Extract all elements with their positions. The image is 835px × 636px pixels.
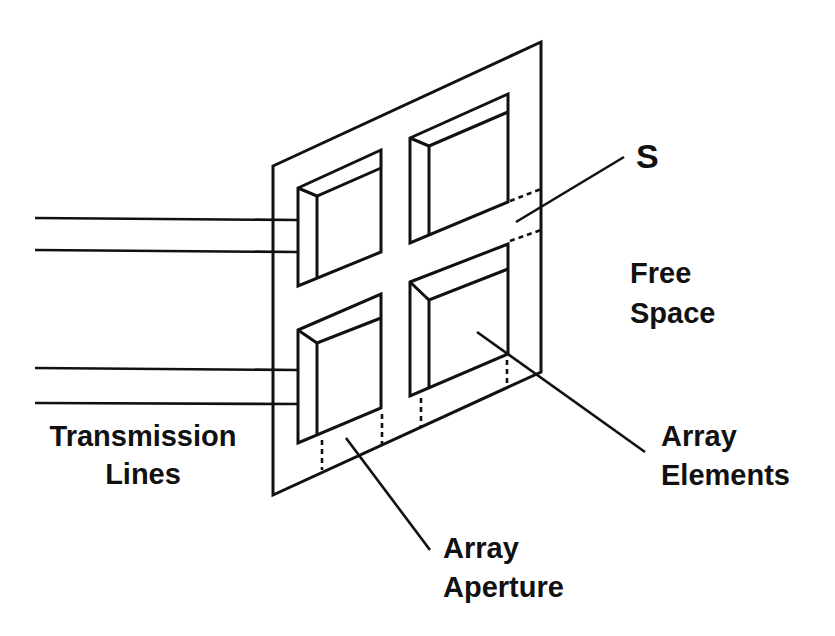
- label-array-aperture-1: Array: [443, 532, 519, 564]
- leader-array-elements: [477, 332, 645, 452]
- leader-s: [516, 157, 624, 222]
- array-element-top-left: [298, 150, 381, 286]
- array-element-bottom-left: [298, 294, 381, 443]
- array-diagram: S Free Space Transmission Lines Array El…: [0, 0, 835, 636]
- transmission-line-2a: [35, 368, 298, 370]
- label-transmission-lines-2: Lines: [105, 458, 181, 490]
- array-element-top-right: [410, 94, 508, 243]
- transmission-line-2b: [35, 403, 298, 404]
- array-element-bottom-right: [410, 244, 508, 396]
- label-s: S: [636, 137, 659, 175]
- label-array-aperture-2: Aperture: [443, 571, 564, 603]
- leader-lines: [346, 157, 645, 550]
- array-aperture-plate: [273, 42, 541, 495]
- transmission-line-1a: [35, 218, 298, 220]
- leader-array-aperture: [346, 438, 430, 550]
- transmission-line-1b: [35, 250, 298, 252]
- label-array-elements-1: Array: [661, 420, 737, 452]
- label-array-elements-2: Elements: [661, 459, 790, 491]
- transmission-lines: [35, 218, 298, 404]
- label-transmission-lines-1: Transmission: [50, 420, 237, 452]
- label-free-space-1: Free: [630, 257, 691, 289]
- label-free-space-2: Space: [630, 297, 715, 329]
